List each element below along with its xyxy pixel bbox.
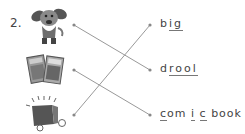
blank: c [160, 107, 167, 121]
blank: o [184, 62, 193, 76]
blank: i [191, 107, 195, 121]
drooling-dog-icon [28, 6, 68, 46]
match-line-box-big [74, 25, 150, 115]
blank: c [200, 107, 207, 121]
dot-right-3[interactable] [148, 113, 151, 116]
word-drool: drool [160, 62, 198, 75]
dot-left-1[interactable] [72, 23, 75, 26]
dot-left-2[interactable] [72, 68, 75, 71]
dot-right-1[interactable] [148, 23, 151, 26]
dot-right-2[interactable] [148, 68, 151, 71]
word-big: big [160, 17, 183, 30]
comic-books-icon [26, 52, 66, 90]
word-comic-book: com i c book [160, 107, 242, 120]
dot-left-3[interactable] [72, 113, 75, 116]
match-line-dog-drool [74, 25, 150, 70]
blank: l [193, 62, 198, 76]
big-box-icon [26, 96, 70, 132]
blank: o [175, 62, 184, 76]
match-line-comics-comicbook [74, 70, 150, 115]
blank: g [174, 17, 183, 31]
